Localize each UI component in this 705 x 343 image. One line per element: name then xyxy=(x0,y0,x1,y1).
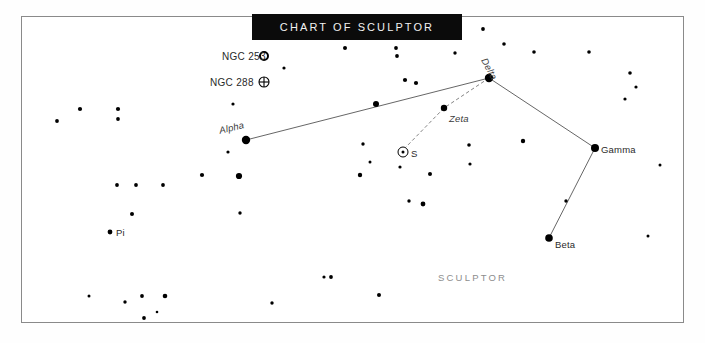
field-star xyxy=(123,300,126,303)
dso-label-ngc-288: NGC 288 xyxy=(210,77,254,88)
field-star xyxy=(502,42,506,46)
field-star xyxy=(163,294,168,299)
chart-title-banner: CHART OF SCULPTOR xyxy=(252,14,462,40)
field-star xyxy=(398,165,401,168)
field-star xyxy=(414,81,418,85)
field-star xyxy=(623,97,626,100)
field-star xyxy=(156,311,159,314)
field-star xyxy=(343,46,347,50)
field-star xyxy=(231,102,234,105)
field-star xyxy=(134,183,138,187)
star-label-zeta: Zeta xyxy=(449,113,469,124)
field-star xyxy=(236,173,242,179)
field-star xyxy=(369,161,372,164)
field-star xyxy=(329,275,333,279)
star-beta[interactable] xyxy=(545,234,553,242)
field-star xyxy=(628,71,632,75)
star-label-beta: Beta xyxy=(555,239,575,250)
field-star xyxy=(78,107,82,111)
field-star xyxy=(428,172,432,176)
field-star xyxy=(116,107,120,111)
field-star xyxy=(358,173,362,177)
field-star xyxy=(421,202,426,207)
field-star xyxy=(116,117,120,121)
field-star xyxy=(142,316,146,320)
field-star xyxy=(238,211,241,214)
field-star xyxy=(481,27,485,31)
field-star xyxy=(659,164,662,167)
field-star xyxy=(394,46,398,50)
field-star xyxy=(377,293,381,297)
field-star xyxy=(161,183,165,187)
field-star xyxy=(647,235,650,238)
page-title: CHART OF SCULPTOR xyxy=(280,21,434,33)
variable-star-label-s: S xyxy=(411,148,418,159)
field-star xyxy=(395,54,399,58)
star-label-pi: Pi xyxy=(116,227,125,238)
field-star xyxy=(115,183,119,187)
star-pi[interactable] xyxy=(108,230,113,235)
sky-canvas xyxy=(0,0,705,343)
field-star xyxy=(564,199,567,202)
field-star xyxy=(200,173,204,177)
field-star xyxy=(361,142,364,145)
star-gamma[interactable] xyxy=(591,144,599,152)
field-star xyxy=(88,295,91,298)
field-star xyxy=(587,50,591,54)
field-star xyxy=(634,85,637,88)
star-label-gamma: Gamma xyxy=(601,144,636,155)
field-star xyxy=(373,101,379,107)
field-star xyxy=(226,150,229,153)
field-star xyxy=(521,139,525,143)
dso-symbol-ngc-288[interactable] xyxy=(259,77,269,87)
dso-label-ngc-253: NGC 253 xyxy=(222,51,266,62)
field-star xyxy=(532,50,536,54)
field-star xyxy=(468,162,471,165)
field-star xyxy=(407,199,410,202)
field-star xyxy=(55,119,59,123)
field-star xyxy=(282,66,285,69)
field-star xyxy=(467,143,471,147)
field-star xyxy=(322,275,325,278)
star-zeta[interactable] xyxy=(441,105,447,111)
field-star xyxy=(453,51,456,54)
field-star xyxy=(130,212,134,216)
field-star xyxy=(403,78,407,82)
field-star xyxy=(270,301,273,304)
star-chart: CHART OF SCULPTOR AlphaDeltaZetaGammaBet… xyxy=(0,0,705,343)
constellation-name: SCULPTOR xyxy=(438,272,507,283)
field-star xyxy=(140,294,144,298)
star-alpha[interactable] xyxy=(242,136,250,144)
